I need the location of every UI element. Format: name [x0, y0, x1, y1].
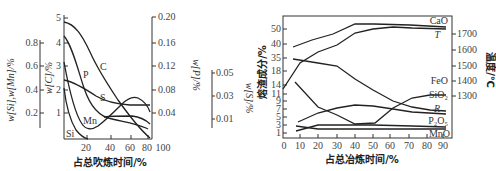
tick-label: 20 — [81, 142, 91, 153]
tick-label: 0 — [282, 140, 287, 151]
tick-label: 1500 — [457, 60, 477, 71]
tick-label: 1 — [56, 107, 61, 118]
right-plot-frame: 50 40 35 18 14 11 9 7 5 3 1 0 10 20 30 4 — [271, 16, 452, 165]
x-axis-label: 占总冶炼时间/% — [325, 153, 399, 165]
label-t: T — [434, 29, 441, 40]
tick-label: 40 — [350, 140, 360, 151]
tick-label: 60 — [385, 140, 395, 151]
axis-label-p: w[P]/% — [191, 59, 202, 91]
left-chart: 0.8 0.6 0.4 0.2 w[Si],w[Mn]/% w[C]/% 5 4… — [5, 11, 255, 168]
tick-label: 0.05 — [216, 67, 234, 78]
tick-label: 0.12 — [158, 60, 176, 71]
axis-label-si-mn: w[Si],w[Mn]/% — [5, 58, 16, 122]
label-p: P — [83, 69, 89, 80]
tick-label: 0.6 — [26, 60, 39, 71]
tick-label: 1400 — [457, 75, 477, 86]
tick-label: 0.8 — [26, 37, 39, 48]
label-mno: MnO — [429, 128, 450, 139]
curve-p2o5 — [296, 125, 446, 131]
x-axis-label: 占总吹炼时间/% — [73, 156, 147, 168]
right-curves — [283, 24, 446, 131]
curve-c — [64, 22, 150, 138]
label-cao: CaO — [430, 15, 448, 26]
tick-label: 0.2 — [26, 107, 39, 118]
si-mn-axis: 0.8 0.6 0.4 0.2 w[Si],w[Mn]/% — [5, 37, 44, 128]
p-axis: 0.20 0.16 0.12 0.08 0.04 w[P]/% — [152, 11, 202, 118]
tick-label: 80 — [422, 140, 432, 151]
tick-label: 40 — [271, 38, 281, 49]
tick-label: 0.4 — [26, 84, 39, 95]
label-p2o5: P₂O₅ — [428, 115, 448, 126]
tick-label: 50 — [368, 140, 378, 151]
tick-label: 3 — [56, 60, 61, 71]
axis-label-s: w[S]/% — [244, 83, 255, 114]
label-r: R — [433, 103, 440, 114]
tick-label: 0.04 — [158, 107, 176, 118]
label-feo: FeO — [431, 75, 448, 86]
tick-label: 40 — [105, 142, 115, 153]
tick-label: 18 — [271, 65, 281, 76]
left-curves — [64, 22, 150, 139]
tick-label: 1700 — [457, 28, 477, 39]
tick-label: 80 — [142, 142, 152, 153]
tick-label: 30 — [332, 140, 342, 151]
figure: 0.8 0.6 0.4 0.2 w[Si],w[Mn]/% w[C]/% 5 4… — [0, 0, 496, 171]
tick-label: 100 — [156, 142, 171, 153]
tick-label: 10 — [295, 140, 305, 151]
tick-label: 70 — [404, 140, 414, 151]
y-axis-label-temperature: 温度/℃ — [485, 52, 496, 88]
tick-label: 0.03 — [216, 90, 234, 101]
tick-label: 0.16 — [158, 37, 176, 48]
tick-label: 90 — [438, 140, 448, 151]
label-sio2: SiO₂ — [429, 89, 448, 100]
tick-label: 0.20 — [158, 11, 176, 22]
temperature-axis: 1700 1600 1500 1400 1300 温度/℃ — [452, 28, 496, 101]
label-si: Si — [66, 128, 75, 139]
tick-label: 35 — [271, 52, 281, 63]
tick-label: 4 — [56, 37, 61, 48]
tick-label: 0.01 — [216, 113, 234, 124]
s-axis: 0.05 0.03 0.01 w[S]/% — [212, 67, 255, 128]
curve-mn — [64, 62, 150, 129]
tick-label: 1600 — [457, 44, 477, 55]
label-mn: Mn — [83, 115, 97, 126]
tick-label: 2 — [56, 84, 61, 95]
tick-label: 1300 — [457, 90, 477, 101]
tick-label: 5 — [56, 12, 61, 23]
curve-cao — [293, 24, 446, 47]
tick-label: 50 — [271, 23, 281, 34]
label-s: S — [100, 92, 106, 103]
tick-label: 20 — [313, 140, 323, 151]
axis-label-c: w[C]/% — [43, 62, 54, 94]
y-axis-label-slag: 熔渣成分/% — [256, 45, 268, 99]
label-c: C — [100, 61, 107, 72]
tick-label: 1 — [276, 127, 281, 138]
curve-feo — [293, 59, 446, 111]
right-chart: 熔渣成分/% 50 40 35 18 14 11 9 7 5 3 1 — [256, 15, 496, 165]
curve-temperature — [283, 27, 446, 89]
tick-label: 0.08 — [158, 84, 176, 95]
tick-label: 60 — [125, 142, 135, 153]
